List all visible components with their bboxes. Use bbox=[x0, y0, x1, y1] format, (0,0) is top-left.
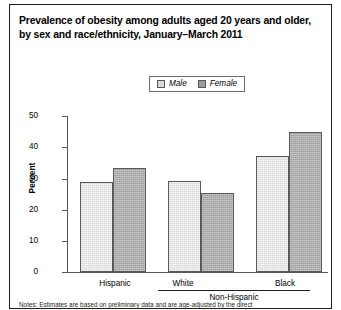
chart-legend: Male Female bbox=[149, 76, 245, 92]
bar-white-male[interactable] bbox=[168, 181, 201, 272]
y-tick-label-0: 0 bbox=[9, 268, 38, 276]
x-axis-label-black: Black bbox=[255, 279, 315, 288]
legend-label-female: Female bbox=[210, 79, 237, 88]
chart-title-line-1: Prevalence of obesity among adults aged … bbox=[19, 14, 319, 28]
chart-title: Prevalence of obesity among adults aged … bbox=[19, 14, 319, 41]
legend-item-female: Female bbox=[198, 79, 237, 88]
y-tick-label-20: 20 bbox=[9, 206, 38, 214]
bar-hispanic-male[interactable] bbox=[80, 182, 113, 273]
bar-black-female[interactable] bbox=[289, 132, 322, 272]
bar-white-female[interactable] bbox=[201, 193, 234, 272]
x-axis-label-white: White bbox=[153, 279, 213, 288]
bar-black-male[interactable] bbox=[256, 156, 289, 272]
non-hispanic-bracket bbox=[158, 290, 310, 291]
figure-panel: Prevalence of obesity among adults aged … bbox=[9, 4, 332, 309]
legend-label-male: Male bbox=[169, 79, 187, 88]
x-axis-line bbox=[67, 272, 328, 273]
chart-footnote: Notes: Estimates are based on preliminar… bbox=[19, 301, 319, 309]
legend-swatch-male bbox=[157, 80, 165, 88]
y-tick-label-40: 40 bbox=[9, 143, 38, 151]
bar-hispanic-female[interactable] bbox=[113, 168, 146, 272]
y-tick-label-30: 30 bbox=[9, 175, 38, 183]
y-tick-label-50: 50 bbox=[9, 112, 38, 120]
y-tick-label-10: 10 bbox=[9, 237, 38, 245]
chart-title-line-2: by sex and race/ethnicity, January–March… bbox=[19, 28, 319, 42]
plot-area bbox=[68, 116, 328, 272]
legend-item-male: Male bbox=[157, 79, 187, 88]
x-axis-label-hispanic: Hispanic bbox=[75, 279, 155, 288]
legend-swatch-female bbox=[198, 80, 206, 88]
